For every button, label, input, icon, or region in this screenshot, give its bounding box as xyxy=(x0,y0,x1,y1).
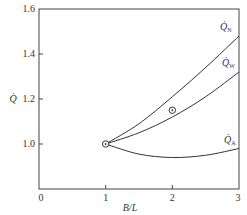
series-label-qn: Q̇N xyxy=(220,21,232,33)
x-tick-label: 1 xyxy=(103,192,108,203)
x-tick-label: 2 xyxy=(170,192,175,203)
y-tick-label: 1.2 xyxy=(23,93,36,104)
series-label-qw: Q̇W xyxy=(222,57,235,69)
y-axis xyxy=(39,54,43,144)
y-tick-label: 1.0 xyxy=(23,138,36,149)
marker-center-dot xyxy=(171,109,173,111)
y-tick-label: 1.6 xyxy=(23,3,36,14)
x-tick-label: 3 xyxy=(236,192,241,203)
x-tick-label: 0 xyxy=(39,192,44,203)
series-line xyxy=(106,144,239,158)
series-curves xyxy=(106,36,239,158)
x-axis xyxy=(106,185,173,189)
plot-frame xyxy=(39,9,239,189)
y-axis-label: Q̇ xyxy=(9,93,17,104)
chart: 1.0 1.2 1.4 1.6 0 1 2 3 B/L Q̇ Q̇N Q̇W Q… xyxy=(0,0,247,215)
series-line xyxy=(106,36,239,144)
marker-center-dot xyxy=(105,143,107,145)
y-tick-label: 1.4 xyxy=(23,48,36,59)
x-axis-label: B/L xyxy=(123,202,138,213)
series-label-qa: Q̇A xyxy=(224,134,236,146)
